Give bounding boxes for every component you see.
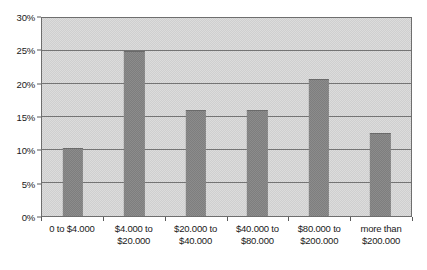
y-tick-label: 30%: [17, 12, 35, 23]
bar-slot: [104, 18, 166, 216]
bar: [370, 133, 390, 216]
bar-slot: [227, 18, 289, 216]
x-tick-mark: [350, 217, 351, 221]
plot-area: [41, 17, 412, 217]
bar: [309, 79, 329, 216]
x-tick-label: more than $200.000: [350, 223, 412, 247]
x-tick-mark: [41, 217, 42, 221]
bars-series: [42, 18, 411, 216]
y-tick-label: 10%: [17, 145, 35, 156]
bar-slot: [288, 18, 350, 216]
x-tick-label: $40.000 to $80.000: [226, 223, 288, 247]
x-tick-label: 0 to $4.000: [41, 223, 103, 247]
y-tick-label: 15%: [17, 112, 35, 123]
x-tick-mark: [165, 217, 166, 221]
y-tick-label: 20%: [17, 78, 35, 89]
bar-slot: [42, 18, 104, 216]
y-tick-label: 0%: [22, 212, 35, 223]
x-tick-label: $20.000 to $40.000: [165, 223, 227, 247]
bar-chart-figure: 0%5%10%15%20%25%30% 0 to $4.000$4.000 to…: [0, 0, 427, 270]
bar: [247, 110, 267, 216]
x-axis: 0 to $4.000$4.000 to $20.000$20.000 to $…: [41, 223, 412, 247]
y-tick-label: 25%: [17, 45, 35, 56]
x-tick-mark: [227, 217, 228, 221]
bar: [186, 110, 206, 216]
x-tick-label: $4.000 to $20.000: [103, 223, 165, 247]
x-tick-label: $80.000 to $200.000: [288, 223, 350, 247]
y-tick-label: 5%: [22, 178, 35, 189]
bar: [124, 51, 144, 216]
x-tick-mark: [412, 217, 413, 221]
bar-slot: [165, 18, 227, 216]
y-axis: 0%5%10%15%20%25%30%: [0, 17, 35, 217]
x-axis-tick-marks: [41, 217, 412, 222]
bar: [63, 148, 83, 216]
bar-slot: [350, 18, 412, 216]
x-tick-mark: [103, 217, 104, 221]
x-tick-mark: [288, 217, 289, 221]
